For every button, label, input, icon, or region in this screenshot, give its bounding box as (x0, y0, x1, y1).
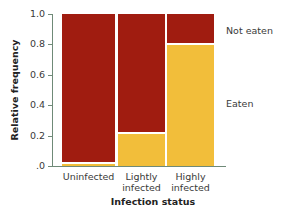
y-tick-label: .0 (5, 161, 45, 171)
legend-eaten: Eaten (226, 98, 253, 109)
segment-eaten (167, 45, 214, 166)
y-tick-label: 0.6 (5, 70, 45, 80)
legend-not-eaten: Not eaten (226, 25, 273, 36)
bar-lightly-infected (118, 14, 165, 166)
category-label-line1: Highly (159, 171, 222, 182)
y-axis-line (52, 14, 53, 167)
category-label-line2: infected (159, 182, 222, 193)
segment-eaten (118, 134, 165, 166)
segment-not-eaten (118, 14, 165, 132)
segment-not-eaten (62, 14, 115, 162)
y-tick (48, 166, 52, 167)
y-tick (48, 44, 52, 45)
y-tick (48, 105, 52, 106)
bar-uninfected (62, 14, 115, 166)
segment-eaten (62, 164, 115, 166)
bar-highly-infected (167, 14, 214, 166)
y-tick-label: 1.0 (5, 9, 45, 19)
x-axis-title: Infection status (93, 196, 213, 207)
y-tick-label: 0.8 (5, 39, 45, 49)
y-tick-label: 0.2 (5, 131, 45, 141)
y-tick (48, 75, 52, 76)
y-tick-label: 0.4 (5, 100, 45, 110)
segment-not-eaten (167, 14, 214, 43)
y-tick (48, 136, 52, 137)
category-label: Highlyinfected (159, 171, 222, 193)
y-tick (48, 14, 52, 15)
mosaic-chart: Relative frequency 1.00.80.60.40.2.0 Uni… (0, 0, 282, 214)
y-axis-title: Relative frequency (9, 39, 20, 140)
x-axis-line (52, 166, 226, 167)
